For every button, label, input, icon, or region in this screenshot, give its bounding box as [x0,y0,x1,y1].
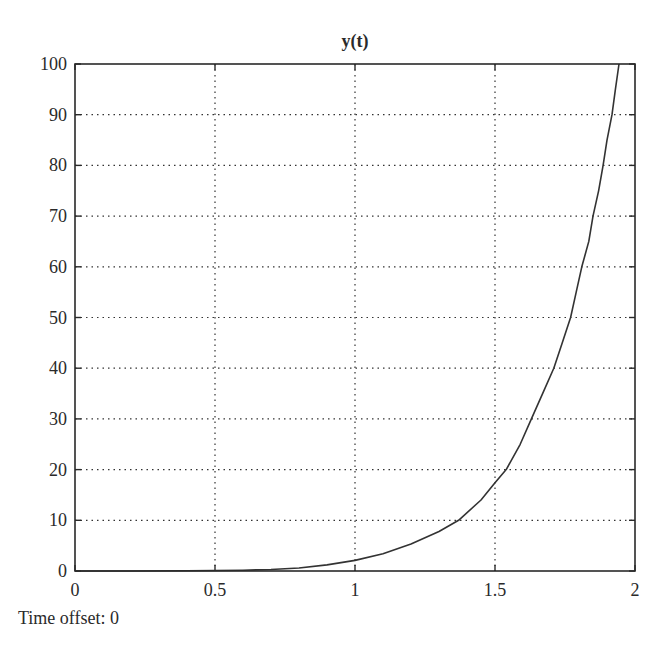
y-tick-label: 40 [49,358,67,378]
grid-lines [75,64,635,571]
y-tick-label: 90 [49,105,67,125]
y-axis-tick-labels: 0102030405060708090100 [40,54,67,581]
y-tick-label: 0 [58,561,67,581]
x-axis-tick-labels: 00.511.52 [71,580,640,600]
y-tick-label: 30 [49,409,67,429]
y-tick-label: 60 [49,257,67,277]
y-tick-label: 80 [49,155,67,175]
x-tick-label: 1 [351,580,360,600]
y-tick-label: 50 [49,308,67,328]
time-offset-label: Time offset: 0 [18,608,119,629]
chart-title: y(t) [342,31,369,52]
x-tick-label: 0.5 [204,580,227,600]
y-tick-label: 70 [49,206,67,226]
y-tick-label: 100 [40,54,67,74]
x-tick-label: 2 [631,580,640,600]
y-tick-label: 20 [49,460,67,480]
line-chart: y(t) 00.511.52 0102030405060708090100 [0,0,672,649]
x-tick-label: 0 [71,580,80,600]
x-tick-label: 1.5 [484,580,507,600]
y-tick-label: 10 [49,510,67,530]
